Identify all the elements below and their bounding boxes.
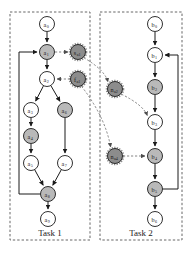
edge-a5-a8: [35, 170, 43, 185]
edge-a7-a8: [53, 170, 61, 185]
node-circle-b6: [148, 212, 163, 227]
task-captions: Task 1Task 2: [38, 228, 153, 238]
graph-node-na2[interactable]: na2: [107, 81, 124, 98]
edge-a2-a6: [51, 86, 60, 101]
node-circle-b5: [148, 182, 163, 197]
graph-node-b1[interactable]: b1: [148, 48, 163, 63]
graph-node-a6[interactable]: a6: [58, 103, 73, 118]
graph-node-b0[interactable]: b0: [148, 17, 163, 32]
node-circle-b3: [148, 115, 163, 130]
task-caption-task1: Task 1: [38, 228, 62, 238]
graph-node-a1[interactable]: a1: [40, 45, 55, 60]
sync-edge-fa1-na4: [81, 86, 110, 147]
node-circle-a3: [24, 103, 39, 118]
graph-node-a7[interactable]: a7: [58, 156, 73, 171]
graph-node-a5[interactable]: a5: [24, 156, 39, 171]
node-circle-a1: [40, 45, 55, 60]
node-circle-a9: [41, 212, 56, 227]
feedback-edge-a8-to-a1: [19, 52, 41, 194]
graph-node-a9[interactable]: a9: [41, 212, 56, 227]
node-circle-a2: [40, 72, 55, 87]
node-circle-a6: [58, 103, 73, 118]
sync-edge-sa1-na2: [84, 58, 108, 82]
node-circle-a4: [24, 129, 39, 144]
figure-canvas: a0a1a2a3a4a5a6a7a8a9sa1fa1b0b1b2b3b4b5b6…: [0, 0, 191, 259]
graph-node-b3[interactable]: b3: [148, 115, 163, 130]
task-box-task2: [100, 12, 182, 240]
graph-node-b6[interactable]: b6: [148, 212, 163, 227]
node-circle-b0: [148, 17, 163, 32]
graph-node-b4[interactable]: b4: [148, 149, 163, 164]
graph-node-a0[interactable]: a0: [40, 17, 55, 32]
node-circle-a7: [58, 156, 73, 171]
edge-a2-a3: [36, 86, 44, 101]
sync-edge-na2-b3: [121, 94, 147, 116]
node-circle-b4: [148, 149, 163, 164]
node-circle-b1: [148, 48, 163, 63]
node-circle-na4: [108, 149, 123, 164]
graph-node-a2[interactable]: a2: [40, 72, 55, 87]
graph-node-na4[interactable]: na4: [107, 148, 124, 165]
node-circle-b2: [148, 80, 163, 95]
task-graph-diagram: a0a1a2a3a4a5a6a7a8a9sa1fa1b0b1b2b3b4b5b6…: [0, 0, 191, 259]
node-circle-sa1: [71, 45, 86, 60]
graph-node-a8[interactable]: a8: [41, 187, 56, 202]
graph-nodes: a0a1a2a3a4a5a6a7a8a9sa1fa1b0b1b2b3b4b5b6…: [24, 17, 163, 227]
node-circle-na2: [108, 82, 123, 97]
node-circle-fa1: [71, 72, 86, 87]
graph-node-a3[interactable]: a3: [24, 103, 39, 118]
task-caption-task2: Task 2: [129, 228, 153, 238]
node-circle-a8: [41, 187, 56, 202]
node-circle-a5: [24, 156, 39, 171]
graph-node-a4[interactable]: a4: [24, 129, 39, 144]
feedback-edge-b5-to-b1: [163, 55, 179, 189]
graph-node-b5[interactable]: b5: [148, 182, 163, 197]
graph-node-fa1[interactable]: fa1: [70, 71, 87, 88]
node-circle-a0: [40, 17, 55, 32]
graph-node-b2[interactable]: b2: [148, 80, 163, 95]
